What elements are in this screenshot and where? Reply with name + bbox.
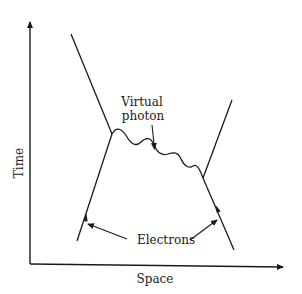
left-electron-outgoing [71, 34, 112, 134]
virtual-photon-label-line1: Virtual [120, 95, 163, 109]
electrons-label: Electrons [137, 233, 195, 247]
electrons-pointer-left [88, 224, 127, 239]
photon-pointer-arrow [152, 125, 155, 149]
left-electron-incoming [77, 134, 112, 241]
space-axis-label: Space [137, 272, 174, 286]
time-axis-label: Time [12, 148, 26, 178]
virtual-photon [112, 129, 203, 178]
space-axis [30, 264, 283, 267]
right-electron-direction-arrow [216, 205, 221, 213]
electrons-pointer-right [190, 220, 217, 240]
right-electron-incoming [203, 178, 234, 250]
virtual-photon-label-line2: photon [122, 109, 165, 123]
right-electron-outgoing [203, 100, 232, 178]
feynman-diagram: Time Space Virtual photon Electrons [0, 0, 302, 294]
